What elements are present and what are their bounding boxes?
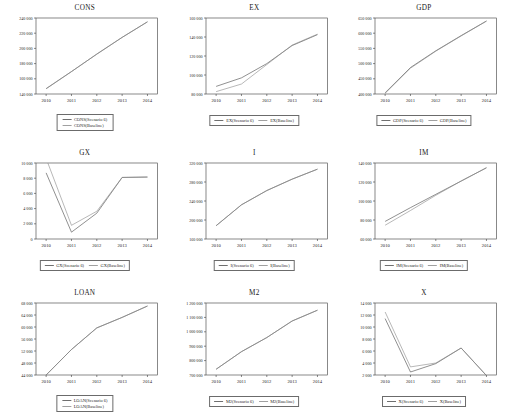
chart-title: I bbox=[170, 149, 340, 157]
x-tick-label: 2011 bbox=[67, 98, 77, 103]
legend-item[interactable]: I(Baseline) bbox=[259, 263, 290, 269]
legend-label: GDP(Baseline) bbox=[440, 118, 467, 124]
chart-legend: GX(Scenario 6)GX(Baseline) bbox=[40, 260, 130, 271]
legend-item[interactable]: EX(Scenario 6) bbox=[215, 118, 254, 124]
x-tick-label: 2013 bbox=[287, 243, 297, 248]
legend-line-swatch-icon bbox=[45, 265, 54, 266]
series-group bbox=[385, 21, 486, 93]
legend-line-swatch-icon bbox=[62, 119, 71, 120]
chart-legend: M2(Scenario 6)M2(Baseline) bbox=[209, 396, 299, 407]
x-tick-label: 2013 bbox=[118, 243, 128, 248]
chart-panel-cons: CONS140 000160 000180 000200 000220 0002… bbox=[0, 0, 170, 145]
series-line-baseline bbox=[216, 34, 317, 91]
x-tick-label: 2013 bbox=[287, 379, 297, 384]
x-tick-label: 2011 bbox=[67, 379, 77, 384]
legend-item[interactable]: CONS(Baseline) bbox=[62, 123, 103, 129]
plot-svg: 2 0004 0006 0008 00010 00012 00014 00020… bbox=[339, 299, 509, 391]
y-tick-label: 14 000 bbox=[360, 301, 371, 306]
y-tick-label: 100 000 bbox=[189, 73, 202, 78]
legend-item[interactable]: GX(Baseline) bbox=[89, 263, 125, 269]
legend-item[interactable]: GDP(Scenario 6) bbox=[381, 118, 423, 124]
chart-panel-x: X2 0004 0006 0008 00010 00012 00014 0002… bbox=[339, 285, 509, 418]
y-tick-label: 400 000 bbox=[358, 92, 371, 97]
y-tick-label: 0 bbox=[30, 237, 32, 242]
y-tick-label: 140 000 bbox=[19, 92, 32, 97]
legend-item[interactable]: M2(Baseline) bbox=[259, 399, 295, 405]
legend-item[interactable]: I(Scenario 6) bbox=[219, 263, 254, 269]
chart-panel-gdp: GDP400 000450 000500 000550 000600 00065… bbox=[339, 0, 509, 145]
x-tick-label: 2012 bbox=[262, 379, 272, 384]
x-tick-label: 2011 bbox=[406, 98, 416, 103]
y-tick-label: 1 200 000 bbox=[186, 301, 202, 306]
legend-line-swatch-icon bbox=[381, 120, 390, 121]
series-line-scenario bbox=[46, 173, 147, 232]
x-tick-label: 2013 bbox=[457, 379, 467, 384]
plot-svg: 02 0004 0006 0008 00010 0002010201120122… bbox=[0, 159, 170, 255]
y-tick-label: 10 000 bbox=[21, 161, 32, 166]
chart-title: CONS bbox=[0, 4, 170, 12]
y-tick-label: 240 000 bbox=[19, 16, 32, 21]
chart-title: M2 bbox=[170, 289, 340, 297]
x-tick-label: 2012 bbox=[92, 243, 102, 248]
legend-item[interactable]: GX(Scenario 6) bbox=[45, 263, 84, 269]
legend-line-swatch-icon bbox=[62, 400, 71, 401]
legend-line-swatch-icon bbox=[428, 401, 437, 402]
legend-label: I(Baseline) bbox=[270, 263, 290, 269]
y-tick-label: 800 000 bbox=[189, 358, 202, 363]
series-line-scenario bbox=[216, 35, 317, 87]
y-tick-label: 240 000 bbox=[189, 199, 202, 204]
plot-svg: 80 000100 000120 000140 000160 000201020… bbox=[170, 14, 340, 110]
legend-item[interactable]: M2(Scenario 6) bbox=[214, 399, 253, 405]
plot-area: 2 0004 0006 0008 00010 00012 00014 00020… bbox=[339, 299, 509, 391]
x-tick-label: 2010 bbox=[211, 98, 221, 103]
x-tick-label: 2012 bbox=[262, 98, 272, 103]
chart-panel-im: IM60 00080 000100 000120 000140 00020102… bbox=[339, 145, 509, 285]
x-tick-label: 2013 bbox=[457, 243, 467, 248]
legend-label: EX(Baseline) bbox=[270, 118, 294, 124]
y-tick-label: 450 000 bbox=[358, 76, 371, 81]
y-tick-label: 650 000 bbox=[358, 16, 371, 21]
x-tick-label: 2010 bbox=[211, 243, 221, 248]
y-tick-label: 4 000 bbox=[23, 206, 32, 211]
plot-frame bbox=[36, 303, 158, 375]
chart-grid: CONS140 000160 000180 000200 000220 0002… bbox=[0, 0, 509, 418]
legend-label: M2(Scenario 6) bbox=[226, 399, 254, 405]
legend-line-swatch-icon bbox=[214, 401, 223, 402]
y-tick-label: 4 000 bbox=[362, 361, 371, 366]
legend-line-swatch-icon bbox=[387, 401, 396, 402]
x-tick-label: 2010 bbox=[42, 98, 52, 103]
x-tick-label: 2014 bbox=[312, 379, 322, 384]
y-tick-label: 8 000 bbox=[362, 337, 371, 342]
plot-frame bbox=[375, 303, 497, 375]
y-tick-label: 550 000 bbox=[358, 46, 371, 51]
series-group bbox=[216, 34, 317, 91]
plot-area: 700 000800 000900 0001 000 0001 100 0001… bbox=[170, 299, 340, 391]
series-group bbox=[385, 168, 486, 225]
plot-frame bbox=[375, 18, 497, 94]
legend-label: LOAN(Baseline) bbox=[74, 404, 104, 410]
legend-item[interactable]: GDP(Baseline) bbox=[428, 118, 466, 124]
legend-item[interactable]: X(Baseline) bbox=[428, 399, 461, 405]
y-tick-label: 200 000 bbox=[189, 218, 202, 223]
y-tick-label: 56 000 bbox=[21, 337, 32, 342]
legend-item[interactable]: IM(Baseline) bbox=[428, 263, 463, 269]
legend-item[interactable]: IM(Scenario 6) bbox=[385, 263, 423, 269]
y-tick-label: 220 000 bbox=[19, 31, 32, 36]
legend-label: X(Scenario 6) bbox=[399, 399, 424, 405]
legend-item[interactable]: LOAN(Baseline) bbox=[62, 404, 104, 410]
y-tick-label: 600 000 bbox=[358, 31, 371, 36]
series-line-scenario bbox=[385, 319, 486, 376]
legend-item[interactable]: X(Scenario 6) bbox=[387, 399, 423, 405]
y-tick-label: 120 000 bbox=[358, 180, 371, 185]
chart-legend: LOAN(Scenario 6)LOAN(Baseline) bbox=[56, 395, 113, 412]
series-line-baseline bbox=[46, 22, 147, 89]
x-tick-label: 2010 bbox=[381, 379, 391, 384]
y-tick-label: 200 000 bbox=[19, 46, 32, 51]
y-tick-label: 48 000 bbox=[21, 361, 32, 366]
y-tick-label: 1 100 000 bbox=[186, 315, 202, 320]
legend-item[interactable]: EX(Baseline) bbox=[259, 118, 294, 124]
chart-title: X bbox=[339, 289, 509, 297]
x-tick-label: 2014 bbox=[143, 98, 153, 103]
series-line-baseline bbox=[385, 312, 486, 376]
plot-svg: 700 000800 000900 0001 000 0001 100 0001… bbox=[170, 299, 340, 391]
